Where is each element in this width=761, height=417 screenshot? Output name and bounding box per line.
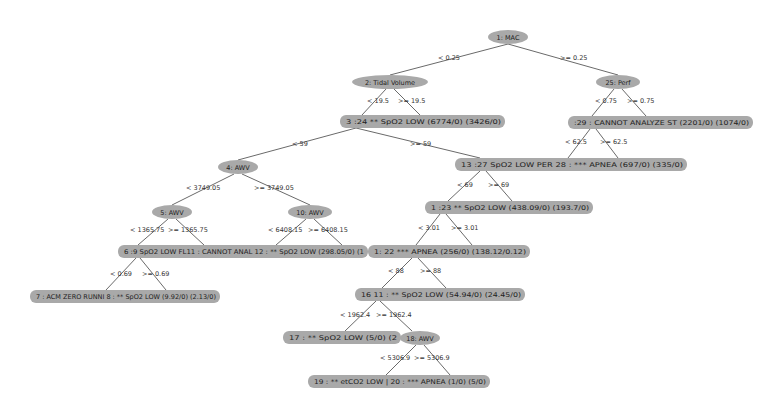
edge-condition-label: >= 0.75 bbox=[627, 97, 654, 105]
edge-condition-label: < 6408.15 bbox=[268, 226, 302, 234]
edge-condition-label: >= 59 bbox=[410, 140, 431, 148]
edge-condition-label: >= 88 bbox=[420, 267, 441, 275]
node-label: 2: Tidal Volume bbox=[365, 79, 415, 87]
node-label: 25: Perf bbox=[605, 79, 631, 87]
edge-condition-label: < 59 bbox=[292, 140, 308, 148]
edge-condition-label: < 0.69 bbox=[110, 270, 132, 278]
leaf-node-b6: 6 :9 SpO2 LOW FL11 : CANNOT ANAL 12 : **… bbox=[118, 245, 368, 258]
leaf-label: 16 11 : ** SpO2 LOW (54.94/0) (24.45/0) bbox=[361, 291, 521, 299]
edge-condition-label: < 1962.4 bbox=[340, 311, 370, 319]
edge-condition-label: >= 19.5 bbox=[398, 97, 425, 105]
leaf-label: 13 :27 SpO2 LOW PER 28 : *** APNEA (697/… bbox=[461, 161, 683, 169]
tree-node-n1: 1: MAC bbox=[488, 30, 528, 44]
node-label: 10: AWV bbox=[296, 209, 324, 217]
leaf-label: 7 : ACM ZERO RUNNI 8 : ** SpO2 LOW (9.92… bbox=[36, 293, 216, 301]
edge-condition-label: < 3749.05 bbox=[186, 184, 220, 192]
edge-condition-label: < 88 bbox=[388, 267, 404, 275]
tree-node-n2: 2: Tidal Volume bbox=[352, 75, 428, 89]
leaf-node-b3: 3 :24 ** SpO2 LOW (6774/0) (3426/0) bbox=[340, 115, 505, 128]
edge-condition-label: < 0.25 bbox=[438, 54, 460, 62]
edge-condition-label: >= 3.01 bbox=[451, 224, 478, 232]
tree-node-n5: 5: AWV bbox=[152, 205, 192, 219]
leaf-nodes: 3 :24 ** SpO2 LOW (6774/0) (3426/0):29 :… bbox=[30, 115, 753, 388]
leaf-node-b19: 19 : ** etCO2 LOW | 20 : *** APNEA (1/0)… bbox=[308, 375, 490, 388]
edge-condition-label: >= 1365.75 bbox=[168, 226, 208, 234]
leaf-node-b7: 7 : ACM ZERO RUNNI 8 : ** SpO2 LOW (9.92… bbox=[30, 290, 220, 303]
edge-condition-label: < 5306.9 bbox=[380, 354, 410, 362]
edge-condition-label: < 1365.75 bbox=[130, 226, 164, 234]
decision-tree: < 0.25>= 0.25< 19.5>= 19.5< 0.75>= 0.75<… bbox=[0, 0, 761, 417]
leaf-label: 3 :24 ** SpO2 LOW (6774/0) (3426/0) bbox=[346, 118, 501, 126]
edge-condition-label: >= 5306.9 bbox=[414, 354, 450, 362]
leaf-label: 6 :9 SpO2 LOW FL11 : CANNOT ANAL 12 : **… bbox=[124, 248, 364, 256]
leaf-node-b21: 1: 22 *** APNEA (256/0) (138.12/0.12) bbox=[368, 245, 530, 258]
node-label: 4: AWV bbox=[226, 164, 250, 172]
leaf-node-b16: 16 11 : ** SpO2 LOW (54.94/0) (24.45/0) bbox=[355, 288, 525, 301]
leaf-label: 1: 22 *** APNEA (256/0) (138.12/0.12) bbox=[374, 248, 526, 256]
tree-node-n4: 4: AWV bbox=[218, 160, 258, 174]
node-label: 1: MAC bbox=[497, 34, 520, 42]
tree-node-n18: 18: AWV bbox=[400, 331, 440, 345]
edge-condition-label: >= 0.69 bbox=[142, 270, 169, 278]
tree-node-n25: 25: Perf bbox=[596, 75, 640, 89]
leaf-label: :29 : CANNOT ANALYZE ST (2201/0) (1074/0… bbox=[574, 119, 749, 127]
leaf-label: 17 : ** SpO2 LOW (5/0) (2 bbox=[289, 334, 397, 342]
edge-condition-label: >= 3749.05 bbox=[254, 184, 294, 192]
edge-condition-label: >= 6408.15 bbox=[308, 226, 348, 234]
edge-condition-label: < 3.01 bbox=[418, 224, 440, 232]
edge-condition-label: < 0.75 bbox=[595, 97, 617, 105]
edge-condition-label: >= 62.5 bbox=[600, 138, 627, 146]
edge-condition-label: < 19.5 bbox=[367, 97, 389, 105]
leaf-node-b17: 17 : ** SpO2 LOW (5/0) (2 bbox=[283, 331, 401, 344]
leaf-label: 1 :23 ** SpO2 LOW (438.09/0) (193.7/0) bbox=[431, 204, 589, 212]
leaf-node-b23: 1 :23 ** SpO2 LOW (438.09/0) (193.7/0) bbox=[425, 201, 593, 214]
edge-condition-label: >= 1962.4 bbox=[376, 311, 412, 319]
tree-node-n10: 10: AWV bbox=[288, 205, 332, 219]
edge-condition-label: < 62.5 bbox=[565, 138, 587, 146]
node-label: 18: AWV bbox=[406, 335, 434, 343]
node-label: 5: AWV bbox=[160, 209, 184, 217]
edge-condition-label: >= 69 bbox=[488, 181, 509, 189]
edge-condition-label: < 69 bbox=[457, 181, 473, 189]
leaf-label: 19 : ** etCO2 LOW | 20 : *** APNEA (1/0)… bbox=[314, 378, 486, 386]
leaf-node-b29: :29 : CANNOT ANALYZE ST (2201/0) (1074/0… bbox=[568, 116, 753, 129]
edge-condition-label: >= 0.25 bbox=[560, 54, 587, 62]
leaf-node-b13: 13 :27 SpO2 LOW PER 28 : *** APNEA (697/… bbox=[455, 158, 687, 171]
